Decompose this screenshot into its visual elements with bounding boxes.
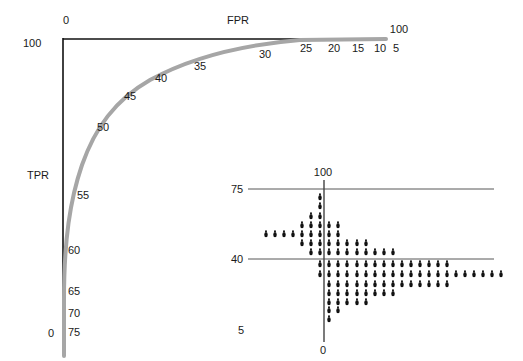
person-dot-icon <box>427 280 431 289</box>
person-dot-icon <box>309 239 313 248</box>
person-dot-icon <box>355 280 359 289</box>
threshold-20: 20 <box>328 42 340 54</box>
person-dot-icon <box>472 270 476 279</box>
person-dot-icon <box>364 298 368 307</box>
person-dot-icon <box>327 315 331 324</box>
inset-5-label: 5 <box>238 324 244 336</box>
fpr-max-label: 100 <box>390 23 408 35</box>
person-dot-icon <box>355 289 359 298</box>
person-dot-icon <box>364 260 368 269</box>
tpr-min-label: 0 <box>48 327 54 339</box>
person-dot-icon <box>427 260 431 269</box>
person-dot-icon <box>418 280 422 289</box>
person-dot-icon <box>327 306 331 315</box>
person-dot-icon <box>336 248 340 257</box>
person-dot-icon <box>318 202 322 211</box>
person-dot-icon <box>291 230 295 239</box>
person-dot-icon <box>373 270 377 279</box>
person-dot-icon <box>463 270 467 279</box>
person-dot-icon <box>345 270 349 279</box>
person-dot-icon <box>318 193 322 202</box>
tpr-axis-title: TPR <box>27 169 49 181</box>
person-dot-icon <box>318 248 322 257</box>
person-dot-icon <box>318 239 322 248</box>
person-dot-icon <box>300 230 304 239</box>
person-dot-icon <box>373 289 377 298</box>
threshold-50: 50 <box>97 121 109 133</box>
threshold-30: 30 <box>259 48 271 60</box>
person-dot-icon <box>300 239 304 248</box>
person-dot-icon <box>273 230 277 239</box>
threshold-25: 25 <box>300 42 312 54</box>
person-dot-icon <box>391 270 395 279</box>
person-dot-icon <box>336 221 340 230</box>
person-dot-icon <box>336 289 340 298</box>
person-dot-icon <box>499 270 503 279</box>
person-dot-icon <box>327 280 331 289</box>
person-dot-icon <box>327 270 331 279</box>
person-dot-icon <box>364 289 368 298</box>
person-dot-icon <box>355 260 359 269</box>
person-dot-icon <box>445 270 449 279</box>
person-dot-icon <box>436 280 440 289</box>
threshold-35: 35 <box>194 60 206 72</box>
threshold-70: 70 <box>68 307 80 319</box>
person-dot-icon <box>445 260 449 269</box>
threshold-40: 40 <box>155 72 167 84</box>
person-dot-icon <box>409 280 413 289</box>
threshold-65: 65 <box>68 285 80 297</box>
threshold-10: 10 <box>374 42 386 54</box>
person-dot-icon <box>336 239 340 248</box>
person-dot-icon <box>300 221 304 230</box>
person-dot-icon <box>318 270 322 279</box>
person-dot-icon <box>309 221 313 230</box>
person-dot-icon <box>327 239 331 248</box>
inset-40-label: 40 <box>231 253 243 265</box>
person-dot-icon <box>345 298 349 307</box>
person-dot-icon <box>355 298 359 307</box>
person-dot-icon <box>336 306 340 315</box>
person-dot-icon <box>445 280 449 289</box>
inset-75-label: 75 <box>231 183 243 195</box>
person-dot-icon <box>490 270 494 279</box>
person-dot-icon <box>345 289 349 298</box>
fpr-axis-title: FPR <box>227 14 249 26</box>
person-dot-icon <box>382 270 386 279</box>
person-dot-icon <box>391 260 395 269</box>
person-dot-icon <box>364 270 368 279</box>
person-dot-icon <box>336 230 340 239</box>
person-dot-icon <box>409 270 413 279</box>
person-dot-icon <box>345 239 349 248</box>
person-dot-icon <box>418 270 422 279</box>
person-dot-icon <box>364 248 368 257</box>
person-dot-icon <box>373 260 377 269</box>
person-dot-icon <box>318 260 322 269</box>
person-dot-icon <box>391 289 395 298</box>
person-dot-icon <box>355 270 359 279</box>
tpr-max-label: 100 <box>23 37 41 49</box>
person-dot-icon <box>400 260 404 269</box>
inset-top-label: 100 <box>314 166 332 178</box>
person-dot-icon <box>282 230 286 239</box>
person-dot-icon <box>400 280 404 289</box>
person-dot-icon <box>327 289 331 298</box>
person-dot-icon <box>391 248 395 257</box>
person-dot-icon <box>364 239 368 248</box>
person-dot-icon <box>264 230 268 239</box>
person-dot-icon <box>436 270 440 279</box>
person-dot-icon <box>327 260 331 269</box>
threshold-5: 5 <box>393 42 399 54</box>
person-dot-icon <box>364 280 368 289</box>
person-dot-icon <box>436 260 440 269</box>
fpr-min-label: 0 <box>63 14 69 26</box>
person-dot-icon <box>373 280 377 289</box>
person-dot-icon <box>427 270 431 279</box>
person-dot-icon <box>327 248 331 257</box>
person-dot-icon <box>400 270 404 279</box>
person-dot-icon <box>336 260 340 269</box>
person-dot-icon <box>309 230 313 239</box>
person-dot-icon <box>345 280 349 289</box>
threshold-75: 75 <box>68 326 80 338</box>
threshold-15: 15 <box>352 42 364 54</box>
person-dot-icon <box>391 280 395 289</box>
